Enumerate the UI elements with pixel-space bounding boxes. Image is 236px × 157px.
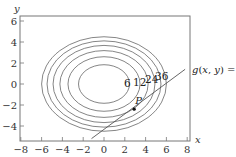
contour-label-36: 36 [155, 70, 169, 82]
x-tick-label: −4 [55, 144, 70, 155]
x-axis-ticks: −8−6−4−202468 [13, 137, 190, 155]
y-tick-label: 0 [11, 79, 17, 90]
contour-label-6: 6 [124, 77, 131, 89]
x-tick-label: 0 [101, 144, 107, 155]
y-axis-ticks: 6420−2−4 [2, 16, 24, 132]
x-tick-label: −8 [13, 144, 28, 155]
x-tick-label: 6 [163, 144, 169, 155]
x-axis-label: x [195, 134, 201, 145]
y-tick-label: 6 [11, 16, 17, 27]
y-axis-label: y [13, 3, 20, 14]
point-p-marker [133, 108, 136, 111]
x-tick-label: 4 [142, 144, 148, 155]
x-tick-label: −2 [76, 144, 91, 155]
contour-plot: P 6122436 g(x, y) = 0 −8−6−4−202468 6420… [0, 0, 236, 157]
y-tick-label: −4 [2, 121, 17, 132]
x-tick-label: 8 [184, 144, 190, 155]
y-tick-label: −2 [2, 100, 17, 111]
x-tick-label: −6 [34, 144, 49, 155]
contour-level-6 [79, 65, 130, 104]
constraint-label: g(x, y) = 0 [192, 64, 236, 75]
point-p-label: P [134, 95, 142, 106]
x-tick-label: 2 [122, 144, 128, 155]
y-tick-label: 4 [11, 37, 17, 48]
y-tick-label: 2 [11, 58, 17, 69]
